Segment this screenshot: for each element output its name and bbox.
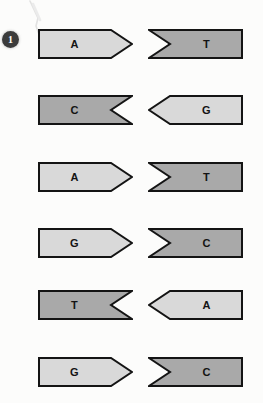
base-pair-row: AT bbox=[0, 29, 263, 59]
base-tile-shape-point-right bbox=[38, 357, 133, 387]
base-pair-row: CG bbox=[0, 95, 263, 125]
base-tile-a-right[interactable]: A bbox=[148, 290, 243, 320]
base-tile-a-left[interactable]: A bbox=[38, 162, 133, 192]
base-tile-c-right[interactable]: C bbox=[148, 228, 243, 258]
base-tile-shape-notch-left bbox=[148, 357, 243, 387]
base-tile-t-right[interactable]: T bbox=[148, 162, 243, 192]
base-pair-row: GC bbox=[0, 228, 263, 258]
base-tile-shape-notch-left bbox=[148, 162, 243, 192]
base-pair-row: TA bbox=[0, 290, 263, 320]
base-tile-shape-notch-right bbox=[38, 290, 133, 320]
base-pair-row: AT bbox=[0, 162, 263, 192]
base-tile-shape-point-right bbox=[38, 162, 133, 192]
base-tile-t-left[interactable]: T bbox=[38, 290, 133, 320]
base-tile-shape-notch-right bbox=[38, 95, 133, 125]
base-tile-shape-point-left bbox=[148, 290, 243, 320]
base-pair-list: ATCGATGCTAGC bbox=[0, 0, 263, 403]
base-tile-c-left[interactable]: C bbox=[38, 95, 133, 125]
base-pair-row: GC bbox=[0, 357, 263, 387]
base-tile-g-left[interactable]: G bbox=[38, 357, 133, 387]
base-tile-shape-point-right bbox=[38, 228, 133, 258]
base-tile-shape-notch-left bbox=[148, 29, 243, 59]
base-tile-c-right[interactable]: C bbox=[148, 357, 243, 387]
base-tile-shape-notch-left bbox=[148, 228, 243, 258]
figure-canvas: 1 ATCGATGCTAGC bbox=[0, 0, 263, 403]
base-tile-t-right[interactable]: T bbox=[148, 29, 243, 59]
base-tile-g-left[interactable]: G bbox=[38, 228, 133, 258]
base-tile-a-left[interactable]: A bbox=[38, 29, 133, 59]
base-tile-g-right[interactable]: G bbox=[148, 95, 243, 125]
base-tile-shape-point-left bbox=[148, 95, 243, 125]
base-tile-shape-point-right bbox=[38, 29, 133, 59]
